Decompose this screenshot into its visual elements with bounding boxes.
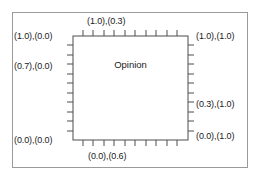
tick-marks-left-edge (67, 45, 73, 131)
tick-marks-top-edge (83, 30, 177, 36)
tick-marks-bottom-edge (83, 140, 177, 146)
label-top-right-corner: (1.0),(1.0) (196, 32, 234, 41)
label-top-center: (1.0),(0.3) (87, 17, 125, 26)
diagram-screenshot: (1.0),(0.0) (1.0),(0.3) (1.0),(1.0) (0.7… (0, 0, 261, 178)
label-right-lower-corner: (0.0),(1.0) (196, 132, 234, 141)
opinion-region-diagram (0, 0, 261, 178)
label-bottom-left-corner: (0.0),(0.0) (14, 136, 52, 145)
label-left-middle: (0.7),(0.0) (14, 62, 52, 71)
label-top-left-corner: (1.0),(0.0) (14, 32, 52, 41)
label-bottom-center: (0.0),(0.6) (88, 152, 126, 161)
label-right-middle: (0.3),(1.0) (196, 100, 234, 109)
tick-marks-right-edge (188, 45, 194, 131)
inner-box (73, 36, 188, 140)
opinion-region-boundary (73, 36, 188, 140)
opinion-region-label: Opinion (73, 60, 188, 70)
